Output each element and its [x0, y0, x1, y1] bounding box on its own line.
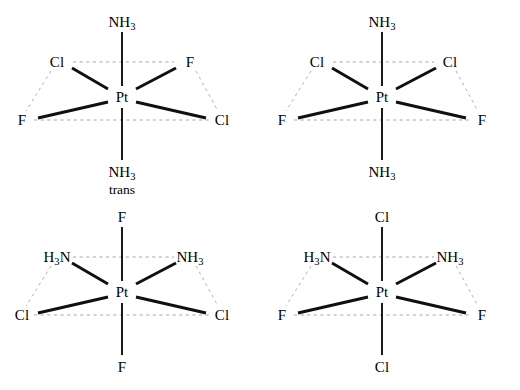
bond-equatorial-lower-right — [136, 102, 206, 118]
ligand-equatorial-lower-left: F — [278, 308, 286, 323]
complex-structure-3: FFH3NNH3ClClPt — [0, 195, 260, 390]
ligand-equatorial-lower-right: Cl — [215, 308, 229, 323]
guide-left-diagonal — [26, 71, 51, 111]
bond-equatorial-upper-right — [136, 68, 176, 89]
ligand-equatorial-lower-right: F — [478, 308, 486, 323]
guide-left-diagonal — [286, 266, 311, 306]
ligand-equatorial-upper-left: Cl — [310, 55, 324, 70]
bond-equatorial-upper-left — [72, 263, 108, 284]
bond-equatorial-lower-left — [38, 297, 108, 313]
ligand-axial-top: F — [118, 210, 126, 225]
bond-equatorial-upper-right — [136, 263, 176, 284]
ligand-axial-top: NH3 — [108, 15, 135, 30]
ligand-axial-bottom: F — [118, 360, 126, 375]
complex-structure-1: NH3NH3ClFFClPttrans — [0, 0, 260, 195]
ligand-axial-bottom: Cl — [375, 360, 389, 375]
ligand-axial-top: NH3 — [368, 15, 395, 30]
guide-left-diagonal — [26, 266, 51, 306]
ligand-equatorial-upper-right: NH3 — [436, 250, 463, 265]
complex-structure-2: NH3NH3ClClFFPt — [260, 0, 520, 195]
metal-center-label: Pt — [113, 284, 132, 301]
guide-right-diagonal — [456, 71, 478, 111]
ligand-equatorial-upper-right: F — [186, 55, 194, 70]
metal-center-label: Pt — [373, 284, 392, 301]
complex-structure-4: ClClH3NNH3FFPt — [260, 195, 520, 390]
bond-equatorial-upper-right — [396, 68, 436, 89]
metal-center-label: Pt — [373, 89, 392, 106]
bond-equatorial-upper-left — [72, 68, 108, 89]
ligand-axial-top: Cl — [375, 210, 389, 225]
ligand-equatorial-lower-right: F — [478, 113, 486, 128]
bond-equatorial-upper-right — [396, 263, 436, 284]
ligand-equatorial-lower-left: Cl — [15, 308, 29, 323]
ligand-equatorial-lower-left: F — [18, 113, 26, 128]
ligand-equatorial-upper-left: Cl — [50, 55, 64, 70]
ligand-equatorial-lower-right: Cl — [215, 113, 229, 128]
ligand-axial-bottom: NH3 — [368, 165, 395, 180]
guide-right-diagonal — [196, 71, 218, 111]
ligand-equatorial-upper-right: NH3 — [176, 250, 203, 265]
bond-equatorial-lower-right — [396, 297, 466, 313]
guide-left-diagonal — [286, 71, 311, 111]
bond-equatorial-lower-left — [298, 297, 368, 313]
isomer-diagram-grid: NH3NH3ClFFClPttransNH3NH3ClClFFPtFFH3NNH… — [0, 0, 520, 390]
bond-equatorial-lower-right — [396, 102, 466, 118]
ligand-equatorial-upper-left: H3N — [303, 250, 330, 265]
ligand-equatorial-upper-left: H3N — [43, 250, 70, 265]
ligand-axial-bottom: NH3 — [108, 165, 135, 180]
bond-equatorial-upper-left — [332, 68, 368, 89]
bond-equatorial-lower-left — [38, 102, 108, 118]
metal-center-label: Pt — [113, 89, 132, 106]
guide-right-diagonal — [196, 266, 218, 306]
guide-right-diagonal — [456, 266, 478, 306]
bond-equatorial-lower-right — [136, 297, 206, 313]
ligand-equatorial-lower-left: F — [278, 113, 286, 128]
ligand-equatorial-upper-right: Cl — [443, 55, 457, 70]
bond-equatorial-upper-left — [332, 263, 368, 284]
bond-equatorial-lower-left — [298, 102, 368, 118]
